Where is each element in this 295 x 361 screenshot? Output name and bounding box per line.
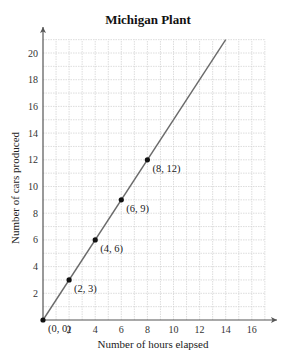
point-label: (8, 12) — [152, 163, 180, 175]
y-tick-label: 20 — [28, 48, 38, 59]
x-tick-label: 16 — [247, 324, 257, 335]
x-tick-label: 14 — [221, 324, 231, 335]
y-tick-label: 2 — [33, 288, 38, 299]
data-point — [40, 317, 45, 322]
x-axis-ticks: 246810121416 — [67, 324, 257, 335]
data-point — [93, 237, 98, 242]
x-tick-label: 10 — [169, 324, 179, 335]
x-axis-label: Number of hours elapsed — [98, 338, 209, 350]
point-label: (6, 9) — [126, 203, 149, 215]
y-tick-label: 14 — [28, 128, 38, 139]
y-tick-label: 8 — [33, 208, 38, 219]
point-label: (2, 3) — [74, 283, 97, 295]
y-axis-label: Number of cars produced — [9, 131, 21, 244]
y-tick-label: 4 — [33, 261, 38, 272]
data-point — [67, 277, 72, 282]
grid — [43, 40, 265, 320]
data-point — [119, 197, 124, 202]
point-label: (4, 6) — [100, 243, 123, 255]
x-tick-label: 12 — [195, 324, 205, 335]
data-point — [145, 157, 150, 162]
y-tick-label: 10 — [28, 181, 38, 192]
y-tick-label: 12 — [28, 154, 38, 165]
point-annotations: (0, 0)(2, 3)(4, 6)(6, 9)(8, 12) — [48, 163, 181, 335]
axes — [40, 27, 277, 323]
x-tick-label: 4 — [93, 324, 98, 335]
line-chart: Michigan Plant 246810121416 246810121416… — [0, 0, 295, 361]
chart-title: Michigan Plant — [105, 12, 191, 27]
x-tick-label: 8 — [145, 324, 150, 335]
point-label: (0, 0) — [48, 323, 71, 335]
x-tick-label: 6 — [119, 324, 124, 335]
y-tick-label: 16 — [28, 101, 38, 112]
y-tick-label: 18 — [28, 74, 38, 85]
y-tick-label: 6 — [33, 234, 38, 245]
y-axis-ticks: 2468101214161820 — [28, 48, 38, 299]
